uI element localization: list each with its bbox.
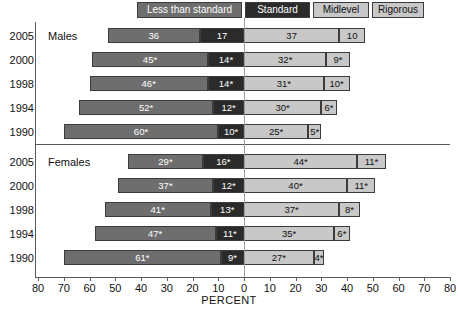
x-axis-tick-label: 30	[309, 282, 333, 294]
x-axis-tick	[399, 277, 400, 281]
bar-row: 52*12*30*6*	[0, 100, 458, 115]
bar-segment-midlevel: 44*	[244, 154, 357, 169]
bar-segment-less-than-standard: 45*	[92, 52, 208, 67]
x-axis-tick	[115, 277, 116, 281]
x-axis-tick	[193, 277, 194, 281]
legend-item-standard: Standard	[245, 2, 310, 18]
bar-segment-rigorous: 8*	[339, 202, 360, 217]
x-axis-tick-label: 0	[232, 282, 256, 294]
x-axis-tick-label: 30	[155, 282, 179, 294]
bar-segment-midlevel: 30*	[244, 100, 321, 115]
legend-item-midlevel: Midlevel	[313, 2, 369, 18]
bar-row: 41*13*37*8*	[0, 202, 458, 217]
bar-segment-rigorous: 4*	[314, 250, 324, 265]
bar-segment-midlevel: 37*	[244, 202, 339, 217]
bar-segment-rigorous: 11*	[357, 154, 385, 169]
bar-segment-midlevel: 35*	[244, 226, 334, 241]
bar-segment-less-than-standard: 52*	[79, 100, 213, 115]
bar-row: 46*14*31*10*	[0, 76, 458, 91]
bar-segment-less-than-standard: 61*	[64, 250, 221, 265]
bar-segment-midlevel: 25*	[244, 124, 308, 139]
bar-row: 61*9*27*4*	[0, 250, 458, 265]
x-axis-line	[35, 277, 450, 278]
x-axis-tick-label: 10	[206, 282, 230, 294]
x-axis-tick-label: 10	[258, 282, 282, 294]
bar-row: 45*14*32*9*	[0, 52, 458, 67]
x-axis-tick-label: 50	[361, 282, 385, 294]
bar-segment-less-than-standard: 29*	[128, 154, 203, 169]
bar-segment-midlevel: 37	[244, 28, 339, 43]
zero-reference-line	[244, 18, 245, 277]
bar-segment-less-than-standard: 46*	[90, 76, 208, 91]
x-axis-tick	[424, 277, 425, 281]
x-axis-tick-label: 50	[103, 282, 127, 294]
bar-segment-standard: 11*	[216, 226, 244, 241]
bar-segment-standard: 9*	[221, 250, 244, 265]
x-axis-tick-label: 20	[284, 282, 308, 294]
bar-row: 60*10*25*5*	[0, 124, 458, 139]
bar-segment-midlevel: 31*	[244, 76, 324, 91]
x-axis-tick	[244, 277, 245, 281]
bar-segment-standard: 14*	[208, 52, 244, 67]
x-axis-tick	[450, 277, 451, 281]
bar-segment-rigorous: 6*	[334, 226, 349, 241]
x-axis-tick	[373, 277, 374, 281]
bar-segment-rigorous: 10*	[324, 76, 350, 91]
x-axis-tick	[167, 277, 168, 281]
left-frame-line	[35, 22, 36, 277]
x-axis-tick-label: 20	[181, 282, 205, 294]
x-axis-tick	[296, 277, 297, 281]
x-axis-tick-label: 40	[335, 282, 359, 294]
bar-segment-midlevel: 40*	[244, 178, 347, 193]
bar-segment-less-than-standard: 60*	[64, 124, 219, 139]
x-axis-tick-label: 80	[438, 282, 458, 294]
x-axis-tick	[347, 277, 348, 281]
bar-segment-standard: 16*	[203, 154, 244, 169]
x-axis-tick	[218, 277, 219, 281]
bar-segment-rigorous: 9*	[326, 52, 349, 67]
x-axis-tick-label: 80	[26, 282, 50, 294]
bar-row: 47*11*35*6*	[0, 226, 458, 241]
bar-segment-midlevel: 27*	[244, 250, 314, 265]
x-axis-tick	[321, 277, 322, 281]
group-divider	[35, 144, 450, 145]
chart-legend: Less than standardStandardMidlevelRigoro…	[0, 2, 458, 20]
bar-row: 37*12*40*11*	[0, 178, 458, 193]
bar-segment-standard: 13*	[211, 202, 244, 217]
x-axis-tick-label: 70	[412, 282, 436, 294]
x-axis-tick	[90, 277, 91, 281]
diverging-stacked-bar-chart: Less than standardStandardMidlevelRigoro…	[0, 0, 458, 311]
bar-segment-less-than-standard: 47*	[95, 226, 216, 241]
bar-row: 36173710	[0, 28, 458, 43]
bar-segment-rigorous: 6*	[321, 100, 336, 115]
bar-segment-rigorous: 10	[339, 28, 365, 43]
x-axis-tick-label: 60	[387, 282, 411, 294]
x-axis-tick	[270, 277, 271, 281]
x-axis-title: PERCENT	[0, 294, 458, 306]
bar-segment-midlevel: 32*	[244, 52, 326, 67]
bar-segment-rigorous: 5*	[308, 124, 321, 139]
bar-segment-less-than-standard: 36	[108, 28, 201, 43]
x-axis-tick	[141, 277, 142, 281]
bar-segment-standard: 12*	[213, 100, 244, 115]
bar-segment-less-than-standard: 41*	[105, 202, 211, 217]
x-axis-tick-label: 60	[78, 282, 102, 294]
legend-item-less-than-standard: Less than standard	[137, 2, 242, 18]
x-axis-tick-label: 40	[129, 282, 153, 294]
bar-segment-less-than-standard: 37*	[118, 178, 213, 193]
x-axis-tick-label: 70	[52, 282, 76, 294]
x-axis-tick	[38, 277, 39, 281]
x-axis-tick	[64, 277, 65, 281]
bar-segment-standard: 17	[200, 28, 244, 43]
legend-item-rigorous: Rigorous	[372, 2, 424, 18]
bar-segment-standard: 12*	[213, 178, 244, 193]
bar-segment-rigorous: 11*	[347, 178, 375, 193]
bar-segment-standard: 14*	[208, 76, 244, 91]
bar-segment-standard: 10*	[218, 124, 244, 139]
bar-row: 29*16*44*11*	[0, 154, 458, 169]
